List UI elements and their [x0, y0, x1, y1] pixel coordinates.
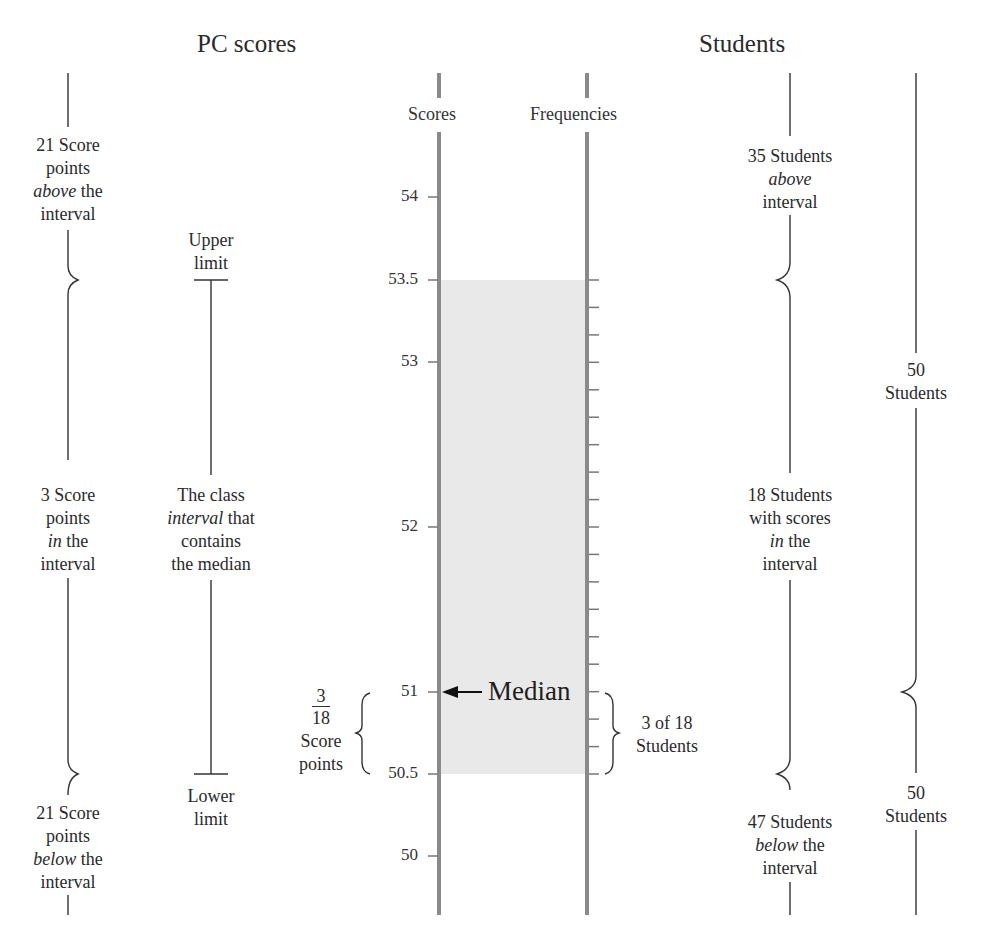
fraction-brace: [356, 693, 370, 774]
three-of-eighteen-label: 3 of 18 Students: [622, 712, 712, 758]
score-points-above-label: 21 Score points above the interval: [18, 134, 118, 226]
fifty-students-lower-label: 50 Students: [866, 782, 966, 828]
frequency-ticks: [589, 280, 599, 774]
tick-label-53: 53: [368, 351, 418, 371]
tick-label-51: 51: [368, 681, 418, 701]
class-interval-label: The class interval that contains the med…: [146, 484, 276, 576]
score-points-below-label: 21 Score points below the interval: [18, 802, 118, 894]
tick-label-54: 54: [368, 186, 418, 206]
median-label: Median: [488, 676, 570, 707]
students-in-label: 18 Students with scores in the interval: [720, 484, 860, 576]
diagram-graphics: [0, 0, 990, 940]
upper-limit-label: Upper limit: [161, 229, 261, 275]
frequency-brace: [605, 693, 619, 774]
fraction-score-points-label: 3 18 Score points: [286, 686, 356, 776]
pc-scores-header: PC scores: [197, 30, 296, 58]
scores-axis-label: Scores: [408, 104, 456, 125]
fraction-3-18: 3 18: [312, 686, 330, 729]
students-below-label: 47 Students below the interval: [720, 811, 860, 880]
frequencies-axis-label: Frequencies: [530, 104, 617, 125]
score-ticks: [428, 197, 438, 856]
tick-label-50: 50: [368, 845, 418, 865]
score-points-in-label: 3 Score points in the interval: [18, 484, 118, 576]
fifty-students-upper-label: 50 Students: [866, 359, 966, 405]
tick-label-53-5: 53.5: [368, 269, 418, 289]
students-header: Students: [699, 30, 785, 58]
tick-label-52: 52: [368, 516, 418, 536]
tick-label-50-5: 50.5: [368, 763, 418, 783]
lower-limit-label: Lower limit: [161, 785, 261, 831]
students-above-label: 35 Students above interval: [720, 145, 860, 214]
